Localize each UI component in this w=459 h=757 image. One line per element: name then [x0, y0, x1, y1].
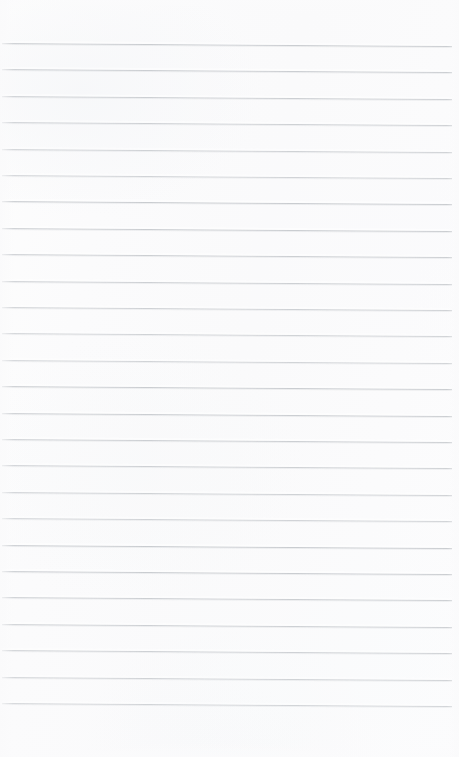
scanned-page: [0, 0, 459, 757]
paper-background: [0, 0, 459, 757]
